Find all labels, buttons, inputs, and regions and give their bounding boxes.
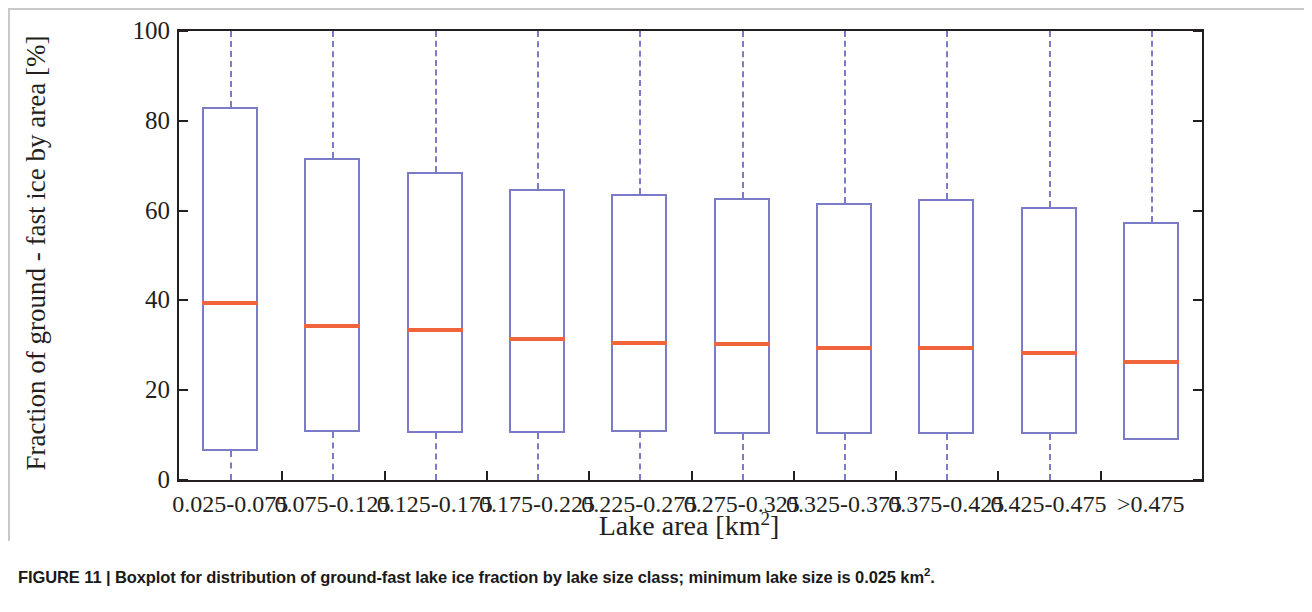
figure-caption: FIGURE 11 | Boxplot for distribution of … <box>18 566 1298 587</box>
caption-figure-number: FIGURE 11 <box>18 568 101 586</box>
y-tick-label: 20 <box>145 376 170 404</box>
x-tick-label: 0.225-0.275 <box>581 491 697 518</box>
plot-axes: 020406080100 0.025-0.0750.075-0.1250.125… <box>177 29 1204 482</box>
x-tick-label: >0.475 <box>1117 491 1185 518</box>
x-tick-label: 0.175-0.225 <box>479 491 595 518</box>
y-tick-label: 80 <box>145 107 170 135</box>
upper-whisker <box>1151 31 1153 222</box>
x-tick-label: 0.375-0.425 <box>888 491 1004 518</box>
y-axis-title: Fraction of ground - fast ice by area [%… <box>21 36 52 471</box>
y-tick-label: 100 <box>133 17 171 45</box>
x-tick-label: 0.025-0.075 <box>172 491 288 518</box>
x-tick-label: 0.075-0.125 <box>274 491 390 518</box>
caption-separator: | <box>106 568 111 586</box>
y-tick-label: 0 <box>158 466 171 494</box>
median-line <box>1123 360 1179 364</box>
x-tick-label: 0.275-0.325 <box>684 491 800 518</box>
caption-body: Boxplot for distribution of ground-fast … <box>115 568 924 586</box>
plot-canvas: Fraction of ground - fast ice by area [%… <box>0 0 1312 548</box>
iqr-box <box>1123 222 1179 440</box>
figure-container: Fraction of ground - fast ice by area [%… <box>0 0 1312 612</box>
caption-body-tail: . <box>930 568 934 586</box>
x-tick-label: 0.125-0.175 <box>377 491 493 518</box>
x-tick-label: 0.425-0.475 <box>991 491 1107 518</box>
y-tick-label: 40 <box>145 286 170 314</box>
y-tick-label: 60 <box>145 197 170 225</box>
boxplot-box <box>179 31 1202 480</box>
x-tick-label: 0.325-0.375 <box>786 491 902 518</box>
